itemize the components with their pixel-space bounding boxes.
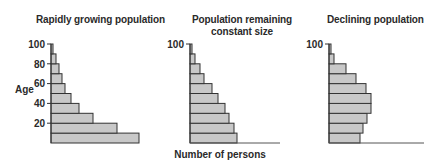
- age-bar: [190, 133, 237, 143]
- pyramid-declining: [325, 44, 424, 143]
- age-bar: [190, 54, 195, 64]
- age-bar: [51, 64, 59, 74]
- age-bar: [190, 113, 229, 123]
- age-bar: [51, 74, 62, 84]
- age-bar: [51, 54, 56, 64]
- age-bar: [329, 103, 371, 113]
- chart-canvas: [0, 0, 425, 163]
- age-bar: [51, 133, 139, 143]
- age-bar: [329, 113, 367, 123]
- age-bar: [190, 94, 218, 104]
- age-bar: [329, 74, 356, 84]
- pyramid-constant: [186, 44, 280, 143]
- age-bar: [329, 64, 346, 74]
- age-bar: [51, 113, 93, 123]
- age-bar: [329, 123, 363, 133]
- age-bar: [190, 74, 204, 84]
- age-bar: [51, 123, 117, 133]
- age-bar: [190, 123, 234, 133]
- age-bar: [190, 103, 225, 113]
- age-bar: [51, 94, 71, 104]
- pyramid-rapidly-growing: [47, 44, 139, 143]
- age-bar: [329, 133, 360, 143]
- age-bar: [329, 84, 366, 94]
- age-bar: [51, 84, 65, 94]
- age-bar: [51, 103, 79, 113]
- age-bar: [190, 84, 212, 94]
- age-bar: [190, 64, 200, 74]
- age-bar: [329, 94, 371, 104]
- age-bar: [329, 54, 334, 64]
